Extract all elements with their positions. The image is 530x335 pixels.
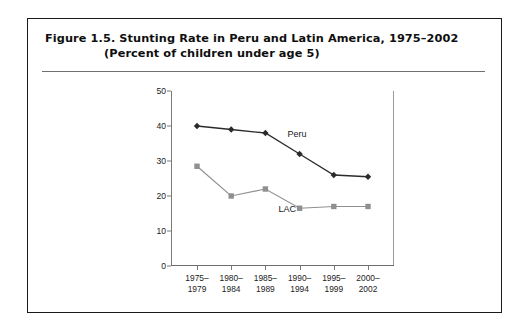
figure-container: Figure 1.5. Stunting Rate in Peru and La…: [27, 18, 502, 313]
x-axis-tick-mark: [197, 266, 198, 270]
chart-plot-wrapper: 01020304050 1975–19791980–19841985–19891…: [28, 19, 503, 314]
y-axis-tick-label: 50: [144, 86, 166, 96]
data-point-peru: [365, 174, 371, 180]
data-point-lac: [229, 193, 234, 198]
y-axis-tick-label: 0: [144, 261, 166, 271]
x-axis-tick-mark: [368, 266, 369, 270]
y-axis-tick-label: 30: [144, 156, 166, 166]
y-axis-tick-label: 40: [144, 121, 166, 131]
data-point-peru: [296, 151, 302, 157]
data-point-peru: [262, 130, 268, 136]
x-axis-tick-mark: [265, 266, 266, 270]
x-axis-tick-label: 2000–2002: [344, 273, 392, 295]
y-axis-tick-label: 10: [144, 226, 166, 236]
x-axis-tick-mark: [300, 266, 301, 270]
data-point-lac: [331, 204, 336, 209]
series-label-peru: Peru: [287, 129, 306, 139]
data-point-lac: [263, 186, 268, 191]
data-point-lac: [297, 206, 302, 211]
chart-plot-area: 01020304050 1975–19791980–19841985–19891…: [171, 91, 394, 266]
chart-series-svg: [171, 91, 394, 266]
x-axis-tick-label-line1: 2000–: [344, 273, 392, 284]
y-axis-tick-label: 20: [144, 191, 166, 201]
series-line-lac: [197, 166, 368, 208]
x-axis-tick-mark: [231, 266, 232, 270]
x-axis-tick-label-line2: 2002: [344, 284, 392, 295]
series-label-lac: LAC: [278, 204, 296, 214]
data-point-peru: [194, 123, 200, 129]
data-point-peru: [331, 172, 337, 178]
data-point-lac: [365, 204, 370, 209]
data-point-lac: [194, 164, 199, 169]
series-line-peru: [197, 126, 368, 177]
data-point-peru: [228, 126, 234, 132]
x-axis-tick-mark: [334, 266, 335, 270]
